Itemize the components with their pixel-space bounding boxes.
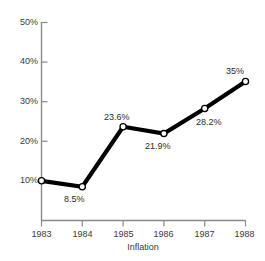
y-axis-tick-label-20: 20%: [8, 136, 38, 146]
data-label-1986: 21.9%: [145, 141, 171, 151]
data-point-1987: [202, 105, 208, 111]
x-axis-tick-label-1986: 1986: [143, 229, 184, 239]
data-point-1988: [242, 78, 248, 84]
x-axis-title: Inflation: [83, 242, 203, 252]
data-label-1987: 28.2%: [196, 117, 222, 127]
x-axis-tick-label-1985: 1985: [103, 229, 144, 239]
data-point-1985: [120, 124, 126, 130]
data-point-1983: [38, 178, 44, 184]
y-axis-tick-label-10: 10%: [8, 175, 38, 185]
y-axis-tick-label-50: 50%: [8, 17, 38, 27]
x-axis-tick-label-1987: 1987: [184, 229, 225, 239]
data-label-1985: 23.6%: [104, 112, 130, 122]
data-point-1986: [161, 131, 167, 137]
data-series-line: [42, 82, 246, 187]
y-axis-tick-label-30: 30%: [8, 96, 38, 106]
y-axis-tick-label-40: 40%: [8, 56, 38, 66]
line-chart: 50% 40% 30% 20% 10% 1983 1984 1985 1986 …: [0, 0, 265, 261]
x-axis-tick-label-1983: 1983: [21, 229, 62, 239]
data-point-1984: [79, 184, 85, 190]
data-label-1984: 8.5%: [64, 194, 85, 204]
x-axis-tick-label-1984: 1984: [62, 229, 103, 239]
chart-plot-area: [0, 0, 265, 261]
x-axis-tick-label-1988: 1988: [224, 229, 265, 239]
data-label-1988: 35%: [226, 66, 244, 76]
